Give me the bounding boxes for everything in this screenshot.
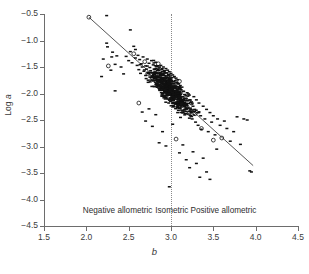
x-tick-mark [256, 227, 257, 231]
x-tick-label: 3.0 [156, 232, 186, 242]
scatter-plot-figure: Log a b −0.5−1.0−1.5−2.0−2.5−3.0−3.5−4.0… [0, 0, 309, 274]
y-axis-title-text: Log [3, 99, 13, 116]
scatter-points [44, 14, 298, 226]
x-tick-mark [44, 227, 45, 231]
x-tick-mark [129, 227, 130, 231]
x-tick-label: 4.0 [241, 232, 271, 242]
y-axis-title-var: a [3, 94, 13, 99]
x-tick-mark [298, 227, 299, 231]
x-tick-label: 3.5 [198, 232, 228, 242]
x-tick-mark [213, 227, 214, 231]
x-axis-title: b [0, 246, 309, 257]
y-tick-label: −2.0 [21, 89, 38, 98]
zone-annotation-label: Positive allometric [190, 206, 256, 216]
y-tick-label: −2.5 [21, 115, 38, 124]
zone-annotation-label: Negative allometric [83, 206, 153, 216]
x-tick-mark [171, 227, 172, 231]
x-tick-label: 1.5 [29, 232, 59, 242]
y-tick-label: −0.5 [21, 9, 38, 18]
y-tick-label: −4.0 [21, 195, 38, 204]
zone-annotation-label: Isometric [155, 206, 188, 216]
x-tick-label: 2.0 [71, 232, 101, 242]
y-axis-title: Log a [3, 75, 13, 135]
x-tick-mark [86, 227, 87, 231]
y-tick-label: −1.5 [21, 62, 38, 71]
y-tick-label: −3.5 [21, 168, 38, 177]
x-tick-label: 4.5 [283, 232, 309, 242]
plot-area: Negative allometricIsometricPositive all… [44, 14, 298, 226]
x-tick-label: 2.5 [114, 232, 144, 242]
y-tick-label: −3.0 [21, 142, 38, 151]
y-tick-label: −1.0 [21, 36, 38, 45]
y-tick-label: −4.5 [21, 221, 38, 230]
